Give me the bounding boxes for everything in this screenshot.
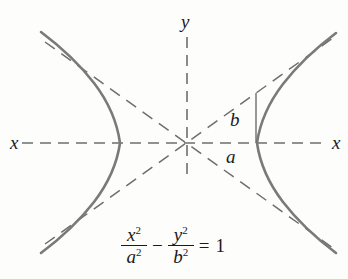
equation-denominator-a: a2	[124, 246, 145, 267]
equation-fraction-x2-a2: x2 a2	[121, 224, 147, 267]
equation-numerator-x: x2	[124, 224, 144, 245]
equation-den2-base: b	[173, 246, 183, 267]
equation-denominator-b: b2	[170, 246, 191, 267]
equation-fraction-y2-b2: y2 b2	[168, 224, 194, 267]
equation-num2-exponent: 2	[182, 224, 188, 236]
hyperbola-figure: x x y b a x2 a2 − y2 b2 = 1	[0, 0, 348, 279]
equation-minus-operator: −	[152, 235, 163, 257]
y-axis-label: y	[181, 12, 189, 31]
equation-num1-exponent: 2	[135, 224, 141, 236]
equation-numerator-y: y2	[171, 224, 191, 245]
hyperbola-equation: x2 a2 − y2 b2 = 1	[120, 224, 225, 267]
equation-num2-base: y	[174, 224, 182, 245]
semi-major-axis-label-a: a	[226, 147, 236, 166]
equation-den1-exponent: 2	[136, 246, 142, 258]
semi-minor-axis-label-b: b	[230, 110, 240, 129]
x-axis-label-right: x	[332, 133, 340, 152]
asymptote-positive-icon	[45, 38, 333, 244]
asymptote-negative-icon	[45, 42, 333, 248]
equation-right-hand-side: 1	[215, 235, 225, 257]
equation-equals-sign: =	[199, 235, 210, 257]
x-axis-label-left: x	[10, 133, 18, 152]
equation-den2-exponent: 2	[183, 246, 189, 258]
equation-den1-base: a	[127, 246, 137, 267]
